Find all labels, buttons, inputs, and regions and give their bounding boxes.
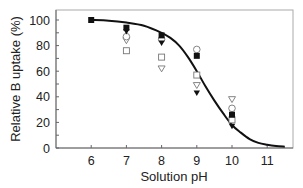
y-tick-label: 20 <box>36 116 50 130</box>
data-points <box>88 17 235 129</box>
square-open-marker <box>123 48 129 54</box>
y-tick-label: 100 <box>29 14 50 28</box>
square-filled-marker <box>88 17 94 23</box>
x-tick-label: 7 <box>123 154 130 168</box>
y-tick-label: 60 <box>36 65 50 79</box>
triangle-down-open-marker <box>193 83 200 89</box>
triangle-down-open-marker <box>158 66 165 72</box>
fit-curve <box>91 20 285 147</box>
x-tick-label: 9 <box>193 154 200 168</box>
x-axis-title: Solution pH <box>140 169 207 184</box>
triangle-down-filled-marker <box>194 90 200 96</box>
circle-open-marker <box>229 105 236 112</box>
circle-open-marker <box>194 46 201 53</box>
square-filled-marker <box>123 25 129 31</box>
x-tick-label: 6 <box>88 154 95 168</box>
y-tick-label: 80 <box>36 39 50 53</box>
y-tick-label: 0 <box>43 142 50 156</box>
x-tick-label: 8 <box>158 154 165 168</box>
y-axis-title: Relative B uptake (%) <box>8 16 23 142</box>
triangle-down-filled-marker <box>158 41 164 47</box>
square-filled-marker <box>159 32 165 38</box>
plot-frame <box>56 10 293 148</box>
y-axis: 020406080100 <box>29 14 59 156</box>
triangle-down-open-marker <box>229 97 236 103</box>
square-open-marker <box>159 54 165 60</box>
chart: 020406080100 67891011 Solution pH Relati… <box>0 0 303 188</box>
square-open-marker <box>229 117 235 123</box>
square-filled-marker <box>194 53 200 59</box>
y-tick-label: 40 <box>36 90 50 104</box>
x-tick-label: 11 <box>261 154 274 168</box>
square-filled-marker <box>229 112 235 118</box>
x-tick-label: 10 <box>225 154 239 168</box>
square-open-marker <box>194 72 200 78</box>
